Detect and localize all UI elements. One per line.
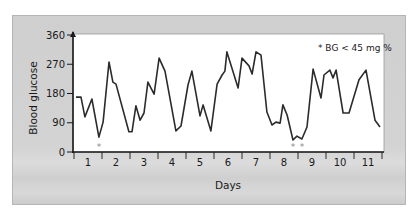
low-bg-marker: * <box>300 142 305 152</box>
x-tick-label: 4 <box>169 157 175 168</box>
x-tick-label: 1 <box>85 157 91 168</box>
blood-glucose-chart: 090180270360 1234567891011 *** * BG < 45… <box>0 0 414 211</box>
y-tick-label: 0 <box>59 147 65 158</box>
x-tick-label: 6 <box>225 157 231 168</box>
x-tick-label: 10 <box>334 157 347 168</box>
y-tick-label: 360 <box>46 30 65 41</box>
x-axis: 1234567891011 <box>72 152 384 168</box>
y-axis-label: Blood glucose <box>27 61 39 134</box>
y-axis: 090180270360 <box>46 30 76 158</box>
x-tick-label: 11 <box>362 157 375 168</box>
low-bg-marker: * <box>97 142 102 152</box>
x-tick-label: 9 <box>309 157 315 168</box>
x-tick-label: 2 <box>113 157 119 168</box>
annotation-note: * BG < 45 mg % <box>318 43 392 53</box>
y-tick-label: 270 <box>46 59 65 70</box>
x-tick-label: 5 <box>197 157 203 168</box>
x-tick-label: 8 <box>281 157 287 168</box>
y-tick-label: 180 <box>46 88 65 99</box>
low-bg-marker: * <box>291 142 296 152</box>
x-axis-label: Days <box>215 179 241 191</box>
x-tick-label: 7 <box>253 157 259 168</box>
y-tick-label: 90 <box>52 117 65 128</box>
x-tick-label: 3 <box>141 157 147 168</box>
